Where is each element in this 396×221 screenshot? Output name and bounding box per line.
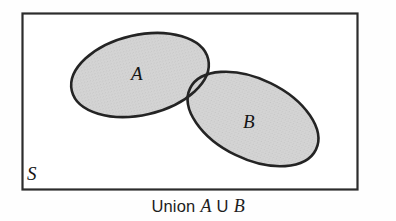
universal-set-label: S — [27, 163, 37, 185]
figure-caption: UnionAUB — [0, 192, 396, 221]
caption-union-operator: U — [217, 197, 229, 216]
caption-set-a: A — [201, 196, 212, 217]
set-a-label: A — [131, 63, 143, 85]
caption-set-b: B — [234, 196, 245, 217]
caption-prefix: Union — [151, 197, 195, 216]
venn-diagram-canvas — [0, 0, 396, 221]
venn-diagram-figure: A B S UnionAUB — [0, 0, 396, 221]
set-b-label: B — [243, 111, 255, 133]
